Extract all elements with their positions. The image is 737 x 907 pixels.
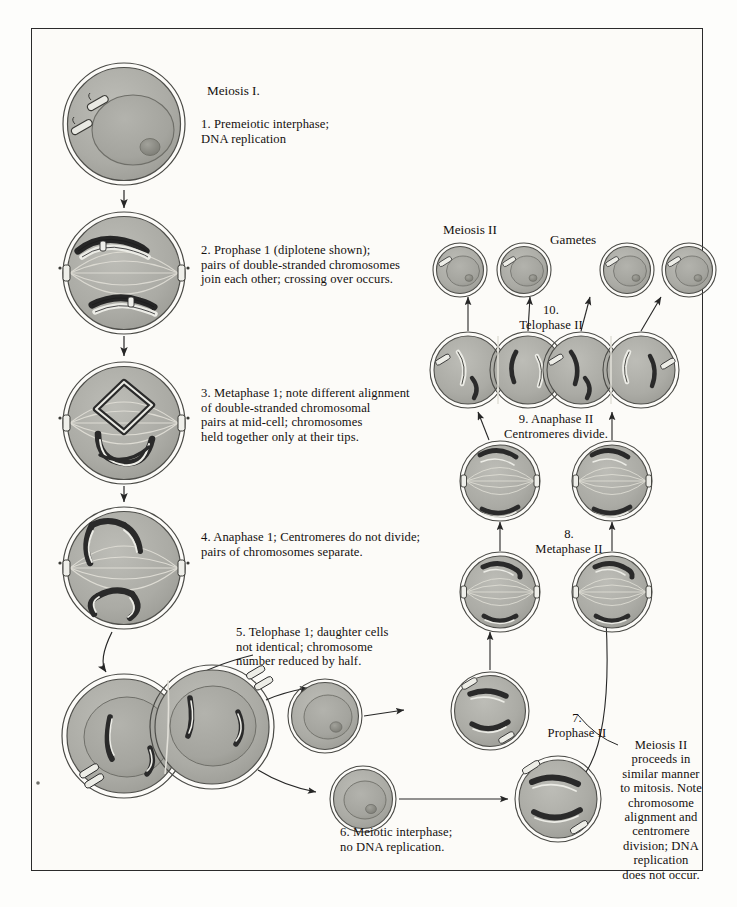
arrow-step4-step5: [103, 632, 112, 672]
note-meiosis-2: Meiosis II proceeds in similar manner to…: [607, 738, 715, 882]
heading-meiosis-2: Meiosis II: [443, 222, 497, 237]
figure-page: Meiosis I. 1. Premeiotic interphase; DNA…: [0, 0, 737, 907]
arrow-telophase-to-interphase-b: [258, 770, 316, 792]
heading-meiosis-1: Meiosis I.: [207, 83, 260, 98]
caption-step-6: 6. Meiotic interphase; no DNA replicatio…: [340, 825, 550, 854]
cell-8-metaphase-ii-b: [572, 552, 652, 632]
cell-7-prophase-ii-a: [451, 672, 529, 750]
caption-step-10: 10. Telophase II: [509, 303, 593, 332]
caption-step-8: 8. Metaphase II: [519, 527, 619, 556]
arrow-anaphase-a-to-telophase: [478, 412, 489, 440]
cell-8-metaphase-ii-a: [460, 552, 540, 632]
ink-speck: [36, 781, 40, 785]
caption-step-2: 2. Prophase 1 (diplotene shown); pairs o…: [201, 243, 471, 287]
cell-10-telophase-ii-b: [543, 332, 679, 408]
arrow-interphase-a-to-prophase: [364, 710, 404, 716]
caption-step-7: 7. Prophase II: [536, 711, 618, 740]
cell-9-anaphase-ii-a: [460, 441, 540, 521]
caption-step-9: 9. Anaphase II Centromeres divide.: [489, 412, 623, 441]
caption-step-5: 5. Telophase 1; daughter cells not ident…: [236, 625, 456, 669]
cell-2-prophase-1: [58, 212, 189, 334]
cell-gamete-2: [497, 243, 551, 297]
cell-gamete-4: [662, 243, 716, 297]
cell-6-meiotic-interphase-a: [288, 679, 362, 753]
heading-gametes: Gametes: [550, 232, 596, 247]
cell-6-meiotic-interphase-b: [330, 766, 396, 832]
cell-5-telophase-1: [62, 665, 274, 798]
arrow-telophase-to-gamete-4: [641, 297, 661, 331]
caption-step-4: 4. Anaphase 1; Centromeres do not divide…: [201, 530, 467, 559]
caption-step-3: 3. Metaphase 1; note different alignment…: [201, 386, 459, 444]
cell-4-anaphase-1: [58, 507, 189, 629]
cell-gamete-3: [600, 243, 654, 297]
cell-3-metaphase-1: [58, 362, 189, 484]
arrow-prophase-b-to-metaphase: [586, 620, 607, 772]
cell-1-premeiotic-interphase: [63, 63, 185, 185]
cell-9-anaphase-ii-b: [572, 441, 652, 521]
caption-step-1: 1. Premeiotic interphase; DNA replicatio…: [201, 117, 451, 146]
